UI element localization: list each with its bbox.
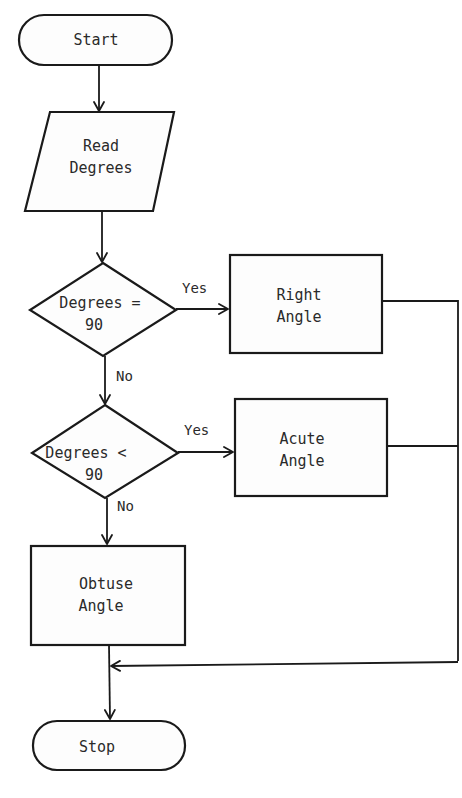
acute-label-line1: Acute: [279, 430, 324, 448]
arrow-to-stop: [109, 645, 110, 719]
decision2-yes-label: Yes: [184, 422, 209, 438]
decision1-label-line2: 90: [85, 316, 103, 334]
right-angle-process: Right Angle: [230, 255, 382, 353]
obtuse-label-line2: Angle: [78, 597, 123, 615]
stop-label: Stop: [79, 738, 115, 756]
acute-label-line2: Angle: [279, 452, 324, 470]
decision1-no-label: No: [116, 368, 133, 384]
decision-equals-90: Degrees = 90: [30, 263, 176, 356]
read-label-line1: Read: [83, 137, 119, 155]
read-label-line2: Degrees: [69, 159, 132, 177]
start-terminator: Start: [19, 15, 172, 65]
decision-less-than-90: Degrees < 90: [32, 405, 178, 498]
decision2-label-line1: Degrees <: [45, 444, 126, 462]
read-degrees-input: Read Degrees: [25, 112, 174, 211]
acute-angle-process: Acute Angle: [235, 399, 387, 496]
arrow-merge: [111, 662, 458, 666]
decision2-no-label: No: [117, 498, 134, 514]
obtuse-angle-process: Obtuse Angle: [31, 546, 185, 645]
decision1-yes-label: Yes: [182, 280, 207, 296]
flowchart-canvas: Start Read Degrees Degrees = 90 Yes Righ…: [0, 0, 462, 798]
obtuse-label-line1: Obtuse: [79, 575, 133, 593]
decision1-label-line1: Degrees =: [59, 294, 140, 312]
right-label-line1: Right: [276, 286, 321, 304]
start-label: Start: [73, 31, 118, 49]
right-label-line2: Angle: [276, 308, 321, 326]
stop-terminator: Stop: [33, 721, 185, 770]
decision2-label-line2: 90: [85, 466, 103, 484]
connector-right-angle: [382, 301, 458, 661]
